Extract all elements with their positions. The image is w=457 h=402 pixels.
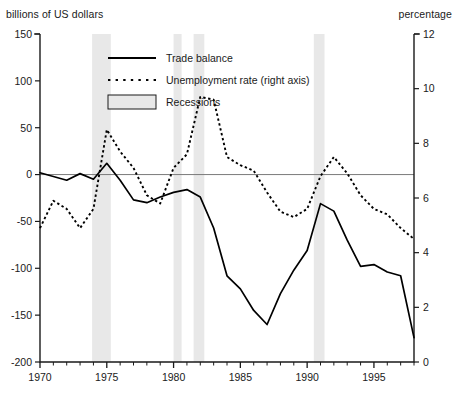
legend-label: Trade balance bbox=[166, 52, 233, 64]
y-tick-label: -150 bbox=[11, 309, 32, 321]
y-tick-label: 0 bbox=[26, 168, 32, 180]
y2-tick-label: 4 bbox=[423, 246, 429, 258]
x-tick-label: 1985 bbox=[229, 371, 253, 383]
legend-label: Unemployment rate (right axis) bbox=[166, 74, 310, 86]
y2-tick-label: 10 bbox=[423, 82, 435, 94]
y-tick-label: -200 bbox=[11, 356, 32, 368]
y2-tick-label: 8 bbox=[423, 137, 429, 149]
chart-container: billions of US dollars percentage 150100… bbox=[0, 0, 457, 402]
y2-tick-label: 12 bbox=[423, 28, 435, 40]
y-tick-label: -100 bbox=[11, 262, 32, 274]
y-tick-label: -50 bbox=[17, 215, 32, 227]
recession-band-0 bbox=[92, 34, 111, 362]
legend-label: Recessions bbox=[166, 96, 220, 108]
y2-tick-label: 2 bbox=[423, 301, 429, 313]
y-tick-label: 100 bbox=[14, 75, 32, 87]
y-tick-label: 150 bbox=[14, 28, 32, 40]
recession-band-3 bbox=[314, 34, 325, 362]
x-tick-label: 1975 bbox=[95, 371, 119, 383]
legend-marker-shaded-box bbox=[108, 95, 156, 109]
x-tick-label: 1990 bbox=[295, 371, 319, 383]
x-tick-label: 1980 bbox=[162, 371, 186, 383]
y2-tick-label: 6 bbox=[423, 192, 429, 204]
x-tick-label: 1970 bbox=[28, 371, 52, 383]
x-tick-label: 1995 bbox=[362, 371, 386, 383]
chart-legend: Trade balanceUnemployment rate (right ax… bbox=[108, 52, 310, 109]
y2-tick-label: 0 bbox=[423, 356, 429, 368]
y-tick-label: 50 bbox=[20, 122, 32, 134]
plot-svg: 150100500-50-100-150-2001210864201970197… bbox=[0, 0, 457, 402]
